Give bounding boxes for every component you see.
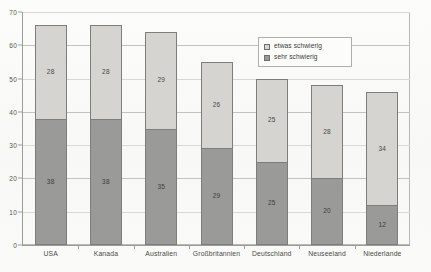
- x-axis-line: [22, 245, 410, 246]
- y-axis-tick-mark: [18, 211, 22, 212]
- x-axis-tick-label: Großbritannien: [193, 250, 240, 257]
- bar-segment-sehr-schwierig[interactable]: 29: [201, 148, 233, 245]
- y-axis-tick-mark: [18, 45, 22, 46]
- bar-group[interactable]: 2820: [311, 85, 343, 245]
- bar-segment-value-label: 20: [323, 208, 331, 215]
- bar-segment-sehr-schwierig[interactable]: 12: [366, 205, 398, 245]
- y-axis-tick-mark: [18, 111, 22, 112]
- x-axis-tick-mark: [189, 245, 190, 249]
- bar-segment-value-label: 28: [47, 69, 55, 76]
- bar-group[interactable]: 2629: [201, 62, 233, 245]
- x-axis-tick-mark: [355, 245, 356, 249]
- y-axis-tick-label: 40: [9, 108, 17, 115]
- bar-segment-value-label: 28: [102, 69, 110, 76]
- bar-group[interactable]: 2838: [35, 25, 67, 245]
- bar-segment-etwas-schwierig[interactable]: 28: [35, 25, 67, 118]
- y-axis-tick-mark: [18, 145, 22, 146]
- legend-swatch-icon: [264, 55, 270, 61]
- bar-segment-etwas-schwierig[interactable]: 28: [90, 25, 122, 118]
- legend-item-etwas-schwierig: etwas schwierig: [264, 41, 346, 52]
- y-axis-tick-label: 0: [13, 242, 17, 249]
- bar-segment-value-label: 34: [379, 146, 387, 153]
- x-axis-tick-label: USA: [43, 250, 57, 257]
- y-axis-tick-mark: [18, 12, 22, 13]
- x-axis-tick-label: Deutschland: [252, 250, 291, 257]
- y-axis-tick-label: 30: [9, 142, 17, 149]
- bar-segment-etwas-schwierig[interactable]: 29: [145, 32, 177, 129]
- legend-item-sehr-schwierig: sehr schwierig: [264, 52, 346, 63]
- y-axis-tick-mark: [18, 78, 22, 79]
- y-axis-tick-label: 20: [9, 175, 17, 182]
- x-axis-tick-mark: [244, 245, 245, 249]
- bar-segment-value-label: 35: [157, 184, 165, 191]
- bar-segment-etwas-schwierig[interactable]: 25: [256, 79, 288, 162]
- bar-segment-value-label: 25: [268, 117, 276, 124]
- x-axis-tick-label: Niederlande: [363, 250, 401, 257]
- bar-segment-value-label: 29: [157, 77, 165, 84]
- bar-segment-sehr-schwierig[interactable]: 25: [256, 162, 288, 245]
- y-axis-tick-label: 70: [9, 9, 17, 16]
- bar-segment-value-label: 29: [213, 193, 221, 200]
- x-axis-tick-mark: [299, 245, 300, 249]
- bar-segment-etwas-schwierig[interactable]: 28: [311, 85, 343, 178]
- bar-segment-etwas-schwierig[interactable]: 26: [201, 62, 233, 149]
- bar-group[interactable]: 2935: [145, 32, 177, 245]
- y-axis-tick-label: 10: [9, 208, 17, 215]
- x-axis-tick-label: Neuseeland: [308, 250, 346, 257]
- bar-group[interactable]: 2525: [256, 79, 288, 245]
- bar-segment-value-label: 28: [323, 129, 331, 136]
- y-axis-tick-mark: [18, 178, 22, 179]
- bar-segment-sehr-schwierig[interactable]: 35: [145, 129, 177, 246]
- bar-segment-value-label: 38: [102, 179, 110, 186]
- bar-segment-sehr-schwierig[interactable]: 38: [90, 119, 122, 245]
- bar-segment-value-label: 25: [268, 200, 276, 207]
- x-axis-tick-label: Kanada: [94, 250, 118, 257]
- bar-group[interactable]: 2838: [90, 25, 122, 245]
- bar-segment-sehr-schwierig[interactable]: 20: [311, 178, 343, 245]
- bar-segment-value-label: 26: [213, 102, 221, 109]
- x-axis-tick-mark: [134, 245, 135, 249]
- x-axis-tick-label: Australien: [145, 250, 177, 257]
- legend-item-label: etwas schwierig: [274, 43, 322, 50]
- bar-segment-sehr-schwierig[interactable]: 38: [35, 119, 67, 245]
- bar-segment-value-label: 38: [47, 179, 55, 186]
- legend-item-label: sehr schwierig: [274, 54, 318, 61]
- chart-root: 010203040506070 283828382935262925252820…: [0, 0, 431, 272]
- x-axis-tick-mark: [78, 245, 79, 249]
- bar-segment-etwas-schwierig[interactable]: 34: [366, 92, 398, 205]
- y-axis-tick-label: 60: [9, 42, 17, 49]
- legend-swatch-icon: [264, 44, 270, 50]
- chart-legend: etwas schwierig sehr schwierig: [258, 37, 352, 67]
- bar-segment-value-label: 12: [379, 222, 387, 229]
- y-axis-tick-mark: [18, 245, 22, 246]
- y-axis-tick-label: 50: [9, 75, 17, 82]
- bar-group[interactable]: 3412: [366, 92, 398, 245]
